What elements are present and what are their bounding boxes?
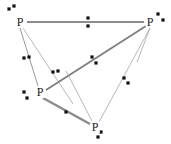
- data-point: [161, 18, 164, 21]
- data-point: [27, 55, 30, 58]
- data-point: [22, 90, 25, 93]
- data-point: [156, 12, 159, 15]
- data-point: [51, 70, 54, 73]
- data-point: [94, 61, 97, 64]
- node-label-p-left: P: [36, 86, 45, 98]
- data-point: [7, 7, 10, 10]
- data-point: [12, 4, 15, 7]
- data-point: [99, 130, 102, 133]
- node-label-p-top-right: P: [146, 16, 155, 28]
- graph-figure: PPPP: [0, 0, 171, 144]
- data-point: [25, 96, 28, 99]
- graph-edge: [99, 28, 150, 122]
- node-label-p-bottom: P: [91, 121, 100, 133]
- data-point: [86, 16, 89, 19]
- graph-edge: [137, 28, 150, 62]
- data-point: [126, 81, 129, 84]
- data-point: [64, 110, 67, 113]
- data-point: [22, 56, 25, 59]
- edges-group: [20, 22, 150, 124]
- graph-edge: [46, 26, 146, 90]
- data-point: [56, 69, 59, 72]
- data-point: [96, 135, 99, 138]
- points-group: [7, 4, 164, 138]
- node-label-p-top-left: P: [16, 16, 25, 28]
- graph-edge: [23, 28, 73, 104]
- data-point: [90, 55, 93, 58]
- data-point: [86, 24, 89, 27]
- data-point: [122, 76, 125, 79]
